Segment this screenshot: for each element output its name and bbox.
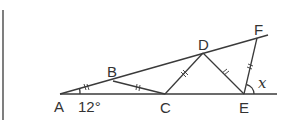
segment-de <box>203 53 244 94</box>
tick-de <box>222 69 229 75</box>
label-e: E <box>239 99 249 116</box>
upper-ray <box>60 35 268 94</box>
angle-x-arc <box>247 85 255 95</box>
label-f: F <box>254 21 263 38</box>
angle-x-label: x <box>258 74 267 92</box>
label-a: A <box>54 98 64 115</box>
segment-ef <box>244 38 257 94</box>
label-c: C <box>160 99 171 116</box>
segment-bc <box>113 81 165 94</box>
angle-a-label: 12° <box>78 98 101 115</box>
label-b: B <box>107 63 117 80</box>
geometry-diagram: A B C D E F 12° x <box>0 0 292 122</box>
label-d: D <box>198 36 209 53</box>
angle-a-arc <box>80 89 81 95</box>
